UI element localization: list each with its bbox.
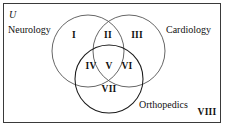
orthopedics-circle (75, 45, 143, 113)
region-label-vii: VII (102, 85, 117, 95)
set-label-orthopedics: Orthopedics (139, 100, 188, 110)
region-label-iii: III (131, 31, 143, 41)
universe-symbol-label: U (9, 10, 16, 20)
region-label-v: V (105, 62, 112, 72)
region-label-vi: VI (122, 62, 133, 72)
region-label-iv: IV (86, 62, 97, 72)
set-label-neurology: Neurology (8, 25, 51, 35)
region-label-ii: II (104, 31, 112, 41)
region-label-i: I (72, 31, 76, 41)
set-label-cardiology: Cardiology (166, 25, 211, 35)
venn-diagram-figure: U Neurology Cardiology Orthopedics I II … (0, 0, 225, 127)
neurology-circle (52, 15, 124, 87)
region-label-viii: VIII (198, 108, 217, 118)
